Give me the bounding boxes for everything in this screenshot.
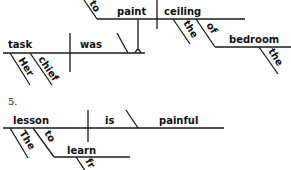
complement-slant [126, 110, 138, 128]
predicate-adjective: painful [159, 115, 198, 126]
verb-word: was [80, 39, 102, 50]
sentence-4-diagram: task was Her chief to paint ceiling the … [3, 0, 291, 85]
infinitive-verb: paint [117, 6, 146, 17]
partial-modifier: fr [83, 156, 97, 170]
infinitive-marker: to [42, 128, 58, 144]
object-word: ceiling [164, 6, 201, 17]
sentence-diagrams: task was Her chief to paint ceiling the … [0, 0, 291, 170]
modifier-the: The [17, 128, 37, 152]
subject-word: lesson [13, 115, 49, 126]
sentence-number: 5. [8, 96, 18, 107]
sentence-5-diagram: 5. lesson is painful The to learn fr [3, 96, 224, 170]
complement-slant [117, 33, 128, 53]
verb-word: is [105, 115, 114, 126]
infinitive-verb: learn [67, 145, 96, 156]
subject-word: task [8, 39, 32, 50]
modifier-the-2: the [266, 46, 285, 68]
infinitive-marker: to [87, 0, 103, 14]
prep-object-word: bedroom [229, 34, 279, 45]
